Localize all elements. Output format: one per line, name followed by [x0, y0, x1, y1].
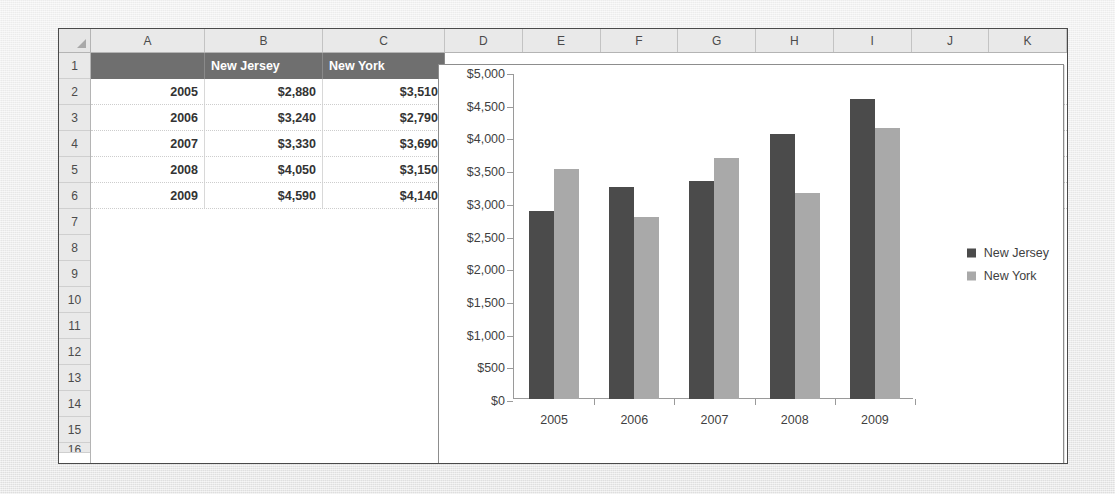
row-header-2[interactable]: 2: [59, 79, 90, 105]
row-header-14[interactable]: 14: [59, 391, 90, 417]
row-header-6[interactable]: 6: [59, 183, 90, 209]
column-header-k[interactable]: K: [989, 29, 1067, 52]
y-axis-tick-label: $1,500: [467, 296, 505, 310]
column-header-f[interactable]: F: [601, 29, 679, 52]
column-header-i[interactable]: I: [834, 29, 912, 52]
bar-new-york-2006[interactable]: [634, 217, 659, 399]
y-axis-tick-label: $2,500: [467, 231, 505, 245]
chart-plot-area: $5,000$4,500$4,000$3,500$3,000$2,500$2,0…: [439, 65, 1063, 463]
bar-group-2008[interactable]: [755, 74, 835, 399]
cell-B6[interactable]: $4,590: [205, 183, 323, 208]
bar-new-jersey-2009[interactable]: [850, 99, 875, 399]
cell-A4[interactable]: 2007: [91, 131, 205, 156]
x-axis-tick-label: 2008: [781, 413, 809, 427]
bar-new-york-2007[interactable]: [714, 158, 739, 399]
legend-item-new-york[interactable]: New York: [967, 269, 1049, 283]
x-axis-tick-label: 2009: [861, 413, 889, 427]
bar-new-jersey-2008[interactable]: [770, 134, 795, 399]
row-header-10[interactable]: 10: [59, 287, 90, 313]
row-header-12[interactable]: 12: [59, 339, 90, 365]
y-axis-tick-label: $3,500: [467, 165, 505, 179]
cell-B5[interactable]: $4,050: [205, 157, 323, 182]
cell-B2[interactable]: $2,880: [205, 79, 323, 104]
cell-C4[interactable]: $3,690: [323, 131, 445, 156]
column-header-g[interactable]: G: [678, 29, 756, 52]
x-axis-tick-label: 2007: [701, 413, 729, 427]
y-axis-tick: [507, 401, 513, 402]
x-axis-tick: [915, 399, 916, 405]
y-axis-tick-label: $500: [477, 361, 505, 375]
column-headers: ABCDEFGHIJK: [91, 29, 1067, 52]
y-axis-tick-label: $4,000: [467, 132, 505, 146]
y-axis-tick-label: $0: [491, 394, 505, 408]
x-axis-tick: [674, 399, 675, 405]
bar-new-york-2008[interactable]: [795, 193, 820, 399]
row-header-16-clipped[interactable]: 16: [59, 443, 90, 453]
bar-new-york-2009[interactable]: [875, 128, 900, 399]
bar-new-jersey-2005[interactable]: [529, 211, 554, 399]
legend-swatch-icon: [967, 271, 976, 280]
row-header-7[interactable]: 7: [59, 209, 90, 235]
x-axis-tick-label: 2005: [540, 413, 568, 427]
cell-A5[interactable]: 2008: [91, 157, 205, 182]
bar-group-2007[interactable]: [674, 74, 754, 399]
x-axis-tick: [755, 399, 756, 405]
bar-group-2009[interactable]: [835, 74, 915, 399]
select-all-corner[interactable]: [59, 29, 91, 52]
row-header-8[interactable]: 8: [59, 235, 90, 261]
legend-item-new-jersey[interactable]: New Jersey: [967, 246, 1049, 260]
y-axis-tick-label: $5,000: [467, 67, 505, 81]
cell-B1[interactable]: New Jersey: [205, 53, 323, 79]
spreadsheet-window: ABCDEFGHIJK 12345678910111213141516 New …: [58, 28, 1068, 464]
bar-new-jersey-2006[interactable]: [609, 187, 634, 399]
column-header-b[interactable]: B: [205, 29, 323, 52]
chart-legend: New JerseyNew York: [967, 237, 1049, 292]
cell-B3[interactable]: $3,240: [205, 105, 323, 130]
legend-label: New York: [984, 269, 1037, 283]
x-axis-tick: [594, 399, 595, 405]
row-header-4[interactable]: 4: [59, 131, 90, 157]
legend-swatch-icon: [967, 248, 976, 257]
column-header-c[interactable]: C: [323, 29, 445, 52]
column-header-e[interactable]: E: [523, 29, 601, 52]
cell-A3[interactable]: 2006: [91, 105, 205, 130]
bar-group-2005[interactable]: [514, 74, 594, 399]
bar-new-jersey-2007[interactable]: [689, 181, 714, 399]
y-axis-tick-label: $4,500: [467, 100, 505, 114]
row-header-3[interactable]: 3: [59, 105, 90, 131]
bar-new-york-2005[interactable]: [554, 169, 579, 399]
x-axis-tick: [835, 399, 836, 405]
row-number-gutter: 12345678910111213141516: [59, 53, 91, 463]
cell-C2[interactable]: $3,510: [323, 79, 445, 104]
cell-A1[interactable]: [91, 53, 205, 79]
y-axis-tick-label: $3,000: [467, 198, 505, 212]
cell-C3[interactable]: $2,790: [323, 105, 445, 130]
row-header-9[interactable]: 9: [59, 261, 90, 287]
column-header-row: ABCDEFGHIJK: [59, 29, 1067, 53]
cell-A6[interactable]: 2009: [91, 183, 205, 208]
row-header-11[interactable]: 11: [59, 313, 90, 339]
cell-B4[interactable]: $3,330: [205, 131, 323, 156]
bar-group-2006[interactable]: [594, 74, 674, 399]
row-header-1[interactable]: 1: [59, 53, 90, 79]
row-header-15[interactable]: 15: [59, 417, 90, 443]
column-header-d[interactable]: D: [445, 29, 523, 52]
row-header-5[interactable]: 5: [59, 157, 90, 183]
select-all-triangle-icon: [77, 39, 86, 48]
embedded-bar-chart[interactable]: $5,000$4,500$4,000$3,500$3,000$2,500$2,0…: [438, 64, 1064, 464]
row-header-13[interactable]: 13: [59, 365, 90, 391]
cell-C5[interactable]: $3,150: [323, 157, 445, 182]
y-axis-labels: $5,000$4,500$4,000$3,500$3,000$2,500$2,0…: [439, 65, 513, 463]
column-header-a[interactable]: A: [91, 29, 205, 52]
legend-label: New Jersey: [984, 246, 1049, 260]
cell-C1[interactable]: New York: [323, 53, 445, 79]
column-header-j[interactable]: J: [912, 29, 990, 52]
cell-A2[interactable]: 2005: [91, 79, 205, 104]
column-header-h[interactable]: H: [756, 29, 834, 52]
y-axis-tick-label: $1,000: [467, 329, 505, 343]
y-axis-tick-label: $2,000: [467, 263, 505, 277]
x-axis-tick-label: 2006: [620, 413, 648, 427]
bars-layer: [514, 74, 913, 399]
cell-C6[interactable]: $4,140: [323, 183, 445, 208]
